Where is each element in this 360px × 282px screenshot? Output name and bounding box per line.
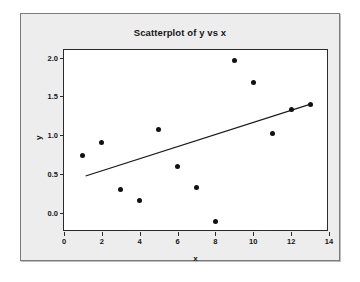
y-tick-label: 0.5 [37,169,58,178]
x-tick-mark [253,232,254,236]
y-tick-label: 0.0 [37,208,58,217]
x-tick-label: 8 [213,237,217,246]
x-tick-mark [215,232,216,236]
regression-line [86,105,309,176]
x-tick-mark [178,232,179,236]
x-tick-label: 0 [62,237,66,246]
x-tick-mark [291,232,292,236]
y-tick-mark [60,135,64,136]
y-tick-mark [60,96,64,97]
data-point [194,185,199,190]
x-tick-mark [140,232,141,236]
x-tick-label: 12 [287,237,295,246]
x-tick-label: 10 [249,237,257,246]
graph-window-panel[interactable]: Scatterplot of y vs x y x 02468101214 0.… [20,13,340,261]
scatterplot-chart: Scatterplot of y vs x y x 02468101214 0.… [21,14,339,260]
data-point [270,131,275,136]
x-axis-title: x [63,254,328,263]
data-point [175,164,180,169]
x-tick-mark [64,232,65,236]
data-point [289,107,294,112]
x-tick-mark [102,232,103,236]
y-tick-mark [60,174,64,175]
chart-title: Scatterplot of y vs x [21,27,339,38]
x-tick-mark [329,232,330,236]
y-tick-mark [60,58,64,59]
y-tick-mark [60,213,64,214]
y-tick-label: 1.0 [37,131,58,140]
data-point [251,80,256,85]
x-tick-label: 14 [325,237,333,246]
x-tick-label: 6 [175,237,179,246]
y-tick-label: 2.0 [37,53,58,62]
screenshot-root: Scatterplot of y vs x y x 02468101214 0.… [0,0,360,282]
y-tick-label: 1.5 [37,92,58,101]
plot-area: 02468101214 0.00.51.01.52.0 [63,49,328,231]
x-tick-label: 4 [138,237,142,246]
data-point [137,198,142,203]
x-tick-label: 2 [100,237,104,246]
